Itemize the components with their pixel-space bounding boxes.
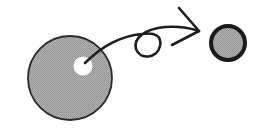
large-disk bbox=[28, 36, 112, 120]
transfer-diagram bbox=[0, 0, 266, 132]
small-disk bbox=[211, 26, 245, 60]
